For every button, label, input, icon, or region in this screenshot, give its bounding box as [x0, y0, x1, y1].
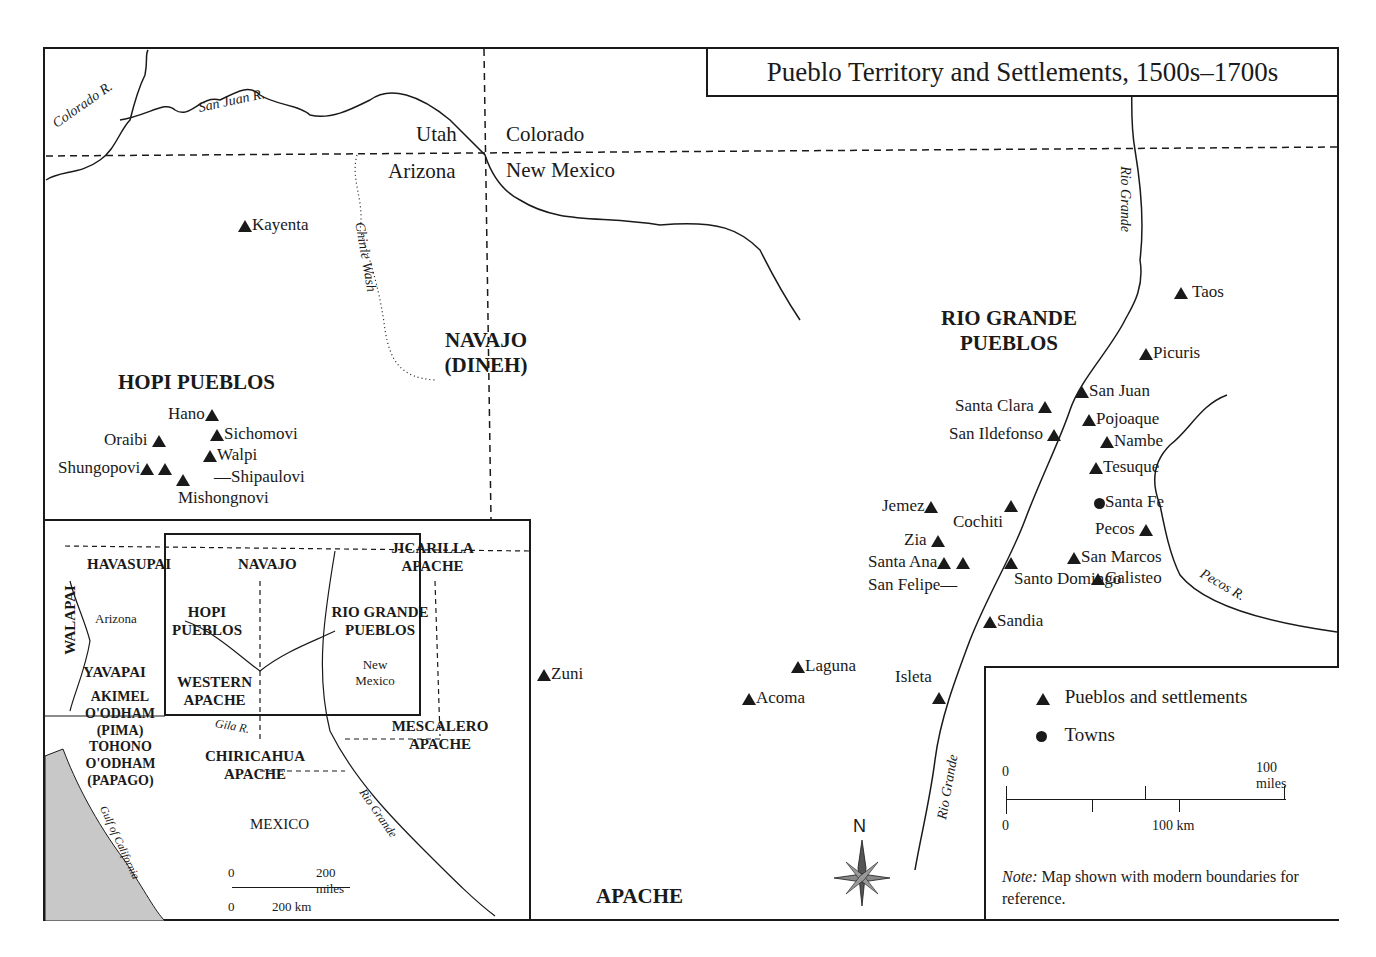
- inset-label-arizona: Arizona: [95, 611, 137, 627]
- inset-label-akimel: AKIMEL O'ODHAM (PIMA): [75, 689, 165, 739]
- inset-label-mescalero: MESCALERO APACHE: [380, 717, 500, 753]
- inset-label-havasupai: HAVASUPAI: [87, 555, 171, 573]
- settlement-santa-clara: Santa Clara: [955, 397, 1052, 414]
- legend-towns: Towns: [1036, 724, 1115, 746]
- inset-label-navajo: NAVAJO: [238, 555, 297, 573]
- legend: Pueblos and settlements Towns 0 100 mile…: [984, 666, 1339, 919]
- state-boundary-ut-az: [46, 147, 1337, 156]
- settlement-zuni: Zuni: [537, 665, 583, 682]
- settlement-isleta-marker: [932, 688, 946, 705]
- settlement-acoma: Acoma: [742, 689, 805, 706]
- compass-star-icon: [834, 838, 890, 908]
- inset-label-western-apache: WESTERN APACHE: [167, 673, 262, 709]
- settlement-cochiti: Cochiti: [953, 513, 1003, 530]
- settlement-pecos: Pecos: [1095, 520, 1153, 537]
- region-label-rio-grande: RIO GRANDE PUEBLOS: [924, 306, 1094, 356]
- region-label-hopi: HOPI PUEBLOS: [118, 370, 275, 395]
- settlement-mishongnovi-marker: [176, 470, 190, 487]
- settlement-picuris: Picuris: [1139, 344, 1200, 361]
- region-label-apache: APACHE: [596, 884, 683, 909]
- settlement-pojoaque: Pojoaque: [1082, 410, 1159, 427]
- settlement-hano: Hano: [168, 405, 219, 422]
- map-title: Pueblo Territory and Settlements, 1500s–…: [706, 47, 1339, 97]
- settlement-tesuque: Tesuque: [1089, 458, 1159, 475]
- settlement-santa-ana: Santa Ana: [868, 553, 970, 570]
- inset-label-new-mexico: New Mexico: [345, 657, 405, 688]
- settlement-san-felipe: San Felipe—: [868, 576, 957, 593]
- inset-map: HAVASUPAI NAVAJO JICARILLA APACHE WALAPA…: [45, 519, 531, 919]
- region-label-navajo: NAVAJO (DINEH): [436, 328, 536, 378]
- inset-label-yavapai: YAVAPAI: [83, 663, 146, 681]
- settlement-oraibi: Oraibi: [104, 431, 166, 448]
- settlement-isleta: Isleta: [895, 668, 932, 685]
- state-label-new-mexico: New Mexico: [506, 160, 615, 181]
- inset-label-jicarilla: JICARILLA APACHE: [385, 539, 480, 575]
- settlement-shungopovi: Shungopovi: [58, 459, 172, 476]
- settlement-taos: Taos: [1174, 283, 1224, 300]
- settlement-galisteo: Galisteo: [1091, 569, 1162, 586]
- town-santa-fe: Santa Fe: [1094, 493, 1164, 510]
- state-label-colorado: Colorado: [506, 124, 584, 145]
- inset-label-rio-grande: RIO GRANDE PUEBLOS: [310, 603, 450, 639]
- settlement-san-ildefonso: San Ildefonso: [949, 425, 1061, 442]
- settlement-san-marcos: San Marcos: [1067, 548, 1162, 565]
- settlement-zia: Zia: [904, 531, 945, 548]
- settlement-san-juan: San Juan: [1075, 382, 1150, 399]
- state-label-arizona: Arizona: [388, 161, 456, 182]
- settlement-jemez: Jemez: [882, 497, 938, 514]
- state-boundary-az-nm: [484, 49, 491, 519]
- settlement-santo-domingo-marker: [1004, 553, 1018, 570]
- inset-label-chiricahua: CHIRICAHUA APACHE: [190, 747, 320, 783]
- inset-label-hopi: HOPI PUEBLOS: [167, 603, 247, 639]
- settlement-laguna: Laguna: [791, 657, 856, 674]
- legend-scale-bar: 0 100 miles 0 100 km: [1002, 764, 1302, 834]
- inset-label-mexico: MEXICO: [250, 815, 309, 833]
- settlement-cochiti-marker: [1004, 496, 1018, 513]
- settlement-kayenta: Kayenta: [238, 216, 309, 233]
- settlement-sandia: Sandia: [983, 612, 1043, 629]
- settlement-sichomovi: Sichomovi: [210, 425, 298, 442]
- north-label: N: [853, 816, 866, 837]
- settlement-shipaulovi: —Shipaulovi: [214, 468, 305, 485]
- inset-scale-bar: 0 200 miles 0 200 km: [228, 865, 348, 911]
- legend-pueblos: Pueblos and settlements: [1036, 686, 1247, 708]
- river-label-rio-grande-north: Rio Grande: [1118, 166, 1132, 232]
- inset-label-tohono: TOHONO O'ODHAM (PAPAGO): [73, 739, 168, 789]
- settlement-mishongnovi: Mishongnovi: [178, 489, 269, 506]
- settlement-walpi: Walpi: [203, 446, 257, 463]
- state-label-utah: Utah: [416, 124, 457, 145]
- settlement-nambe: Nambe: [1100, 432, 1163, 449]
- inset-label-walapai: WALAPAI: [61, 585, 79, 655]
- legend-note: Note: Map shown with modern boundaries f…: [1002, 866, 1339, 911]
